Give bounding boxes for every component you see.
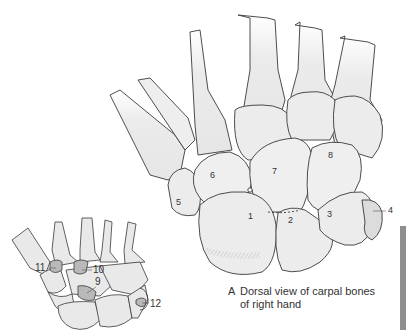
page-edge-bar xyxy=(400,226,406,330)
metacarpal-base-3 xyxy=(287,92,337,140)
panel-letter: A xyxy=(228,285,240,298)
inset-bone-11 xyxy=(50,260,62,273)
label-2: 2 xyxy=(288,215,293,225)
bone-4 xyxy=(362,200,382,240)
label-4: 4 xyxy=(388,205,393,215)
inset-bone-12 xyxy=(136,298,146,307)
bone-1 xyxy=(199,192,276,275)
label-1: 1 xyxy=(248,211,253,221)
caption-line-1: Dorsal view of carpal bones xyxy=(240,285,375,297)
inset-bone-10 xyxy=(74,260,88,274)
label-11: 11 xyxy=(35,262,46,273)
inset-diagram xyxy=(12,218,148,329)
label-12: 12 xyxy=(150,298,162,309)
label-5: 5 xyxy=(176,197,181,207)
label-7: 7 xyxy=(272,166,277,176)
label-8: 8 xyxy=(328,150,333,160)
label-3: 3 xyxy=(327,209,332,219)
label-10: 10 xyxy=(93,264,105,275)
figure-caption: ADorsal view of carpal bones of right ha… xyxy=(228,285,378,311)
caption-line-2: of right hand xyxy=(228,298,378,311)
main-dorsal-view xyxy=(110,15,383,274)
metacarpal-1 xyxy=(190,30,232,155)
label-6: 6 xyxy=(210,170,215,180)
label-9: 9 xyxy=(95,276,101,287)
